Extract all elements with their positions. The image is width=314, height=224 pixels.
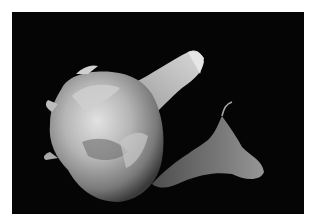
garlic-photo xyxy=(12,12,304,214)
dried-stem xyxy=(152,116,264,188)
garlic-illustration xyxy=(12,12,304,214)
